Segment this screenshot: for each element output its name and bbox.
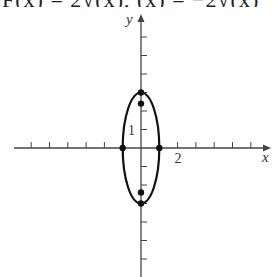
point-vertex-bottom xyxy=(138,200,144,206)
point-focus-bottom xyxy=(138,189,144,195)
point-focus-top xyxy=(138,100,144,106)
x-tick-label: 2 xyxy=(175,151,182,166)
y-axis-arrow-icon xyxy=(138,14,145,22)
ellipse-graph: 21xy xyxy=(0,0,273,277)
point-covertex-left xyxy=(120,145,126,151)
point-covertex-right xyxy=(156,145,162,151)
y-tick-label: 1 xyxy=(128,123,135,138)
labels: 21xy xyxy=(124,11,269,166)
point-vertex-top xyxy=(138,89,144,95)
x-axis-label: x xyxy=(261,149,269,165)
y-axis-label: y xyxy=(124,11,133,27)
